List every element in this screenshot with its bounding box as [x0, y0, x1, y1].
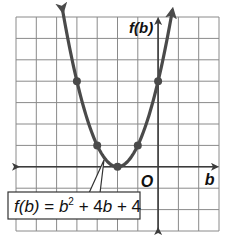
data-point — [93, 141, 101, 149]
data-point — [73, 77, 81, 85]
equation-callout: f(b) = b2 + 4b + 4 — [8, 160, 141, 219]
data-point — [134, 141, 142, 149]
parabola-graph: f(b) b O f(b) = b2 + 4b + 4 — [0, 0, 237, 248]
y-axis-label: f(b) — [129, 19, 153, 36]
data-point — [114, 163, 122, 171]
origin-label: O — [141, 173, 154, 190]
x-axis-label: b — [205, 171, 215, 188]
equation-text: f(b) = b2 + 4b + 4 — [14, 196, 141, 216]
data-point — [154, 77, 162, 85]
